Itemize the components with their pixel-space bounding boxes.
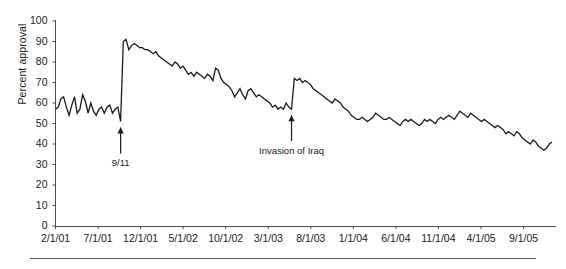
figure-divider-rule: [30, 258, 536, 259]
y-tick-label-60: 60: [22, 96, 48, 108]
annotation-label-9-11: 9/11: [87, 157, 155, 168]
y-tick-label-20: 20: [22, 178, 48, 190]
y-tick-label-50: 50: [22, 117, 48, 129]
y-tick-label-90: 90: [22, 35, 48, 47]
y-tick-label-30: 30: [22, 158, 48, 170]
annotation-label-invasion-of-iraq: Invasion of Iraq: [248, 145, 336, 156]
y-tick-label-0: 0: [22, 219, 48, 231]
approval-line-series: [56, 39, 553, 150]
y-tick-label-40: 40: [22, 137, 48, 149]
approval-rating-chart: Percent approval 0102030405060708090100 …: [0, 0, 566, 269]
y-tick-label-100: 100: [22, 14, 48, 26]
chart-plot-area: [0, 0, 566, 269]
x-tick-label-9-1-05: 9/1/05: [498, 232, 550, 244]
y-tick-label-10: 10: [22, 199, 48, 211]
y-tick-label-70: 70: [22, 76, 48, 88]
y-tick-label-80: 80: [22, 55, 48, 67]
